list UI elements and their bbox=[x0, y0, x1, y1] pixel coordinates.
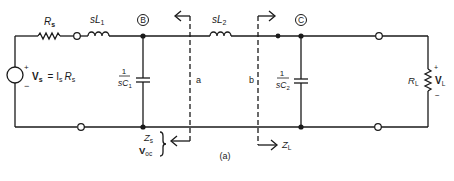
circuit-diagram: B C Rs sL1 sL2 + − Vs= bbox=[0, 0, 454, 181]
terminal-bottom-right-icon bbox=[375, 124, 382, 131]
source-plus: + bbox=[24, 63, 29, 72]
c2-numerator: 1 bbox=[280, 69, 285, 78]
node-b-label: B bbox=[140, 15, 146, 25]
zs-label: Zs bbox=[143, 132, 154, 144]
source-voltage-label: Vs= IsRs bbox=[32, 71, 76, 83]
junction-dot bbox=[276, 34, 281, 39]
source-minus: − bbox=[24, 81, 29, 91]
voc-label: Voc bbox=[139, 145, 153, 157]
rl-label: RL bbox=[408, 75, 419, 87]
terminal-bottom-left-icon bbox=[78, 124, 85, 131]
vl-plus: + bbox=[434, 64, 438, 71]
inductor-l2-icon bbox=[210, 32, 231, 36]
rs-label: Rs bbox=[44, 16, 55, 28]
plane-b-label: b bbox=[249, 75, 254, 85]
resistor-rl-icon bbox=[425, 69, 431, 91]
node-c-label: C bbox=[298, 15, 304, 25]
voltage-source-icon bbox=[7, 67, 23, 83]
terminal-top-right-icon bbox=[376, 33, 383, 40]
vl-minus: − bbox=[435, 91, 440, 100]
figure-caption: (a) bbox=[220, 151, 231, 161]
c2-denominator: sC2 bbox=[276, 80, 290, 91]
terminal-top-left-icon bbox=[74, 33, 81, 40]
inductor-l1-icon bbox=[88, 32, 109, 36]
plane-a-label: a bbox=[196, 75, 201, 85]
resistor-rs-icon bbox=[38, 33, 60, 39]
sl1-label: sL1 bbox=[90, 14, 105, 26]
c1-numerator: 1 bbox=[122, 67, 127, 76]
brace-icon bbox=[160, 132, 166, 156]
vl-label: VL bbox=[435, 75, 446, 87]
sl2-label: sL2 bbox=[212, 14, 227, 26]
c1-denominator: sC1 bbox=[118, 78, 132, 89]
zl-label: ZL bbox=[281, 139, 292, 151]
